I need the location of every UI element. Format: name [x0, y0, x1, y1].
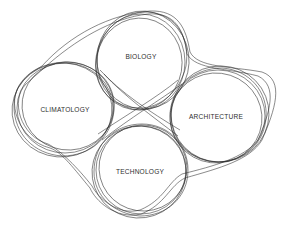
center-crossing-strands	[98, 70, 182, 140]
technology-label: TECHNOLOGY	[116, 168, 165, 175]
biology-label: BIOLOGY	[125, 53, 156, 60]
architecture-label: ARCHITECTURE	[189, 113, 243, 120]
interdisciplinary-diagram: BIOLOGY CLIMATOLOGY ARCHITECTURE TECHNOL…	[0, 0, 283, 226]
loop-diagram: BIOLOGY CLIMATOLOGY ARCHITECTURE TECHNOL…	[0, 0, 283, 226]
climatology-label: CLIMATOLOGY	[40, 106, 90, 113]
